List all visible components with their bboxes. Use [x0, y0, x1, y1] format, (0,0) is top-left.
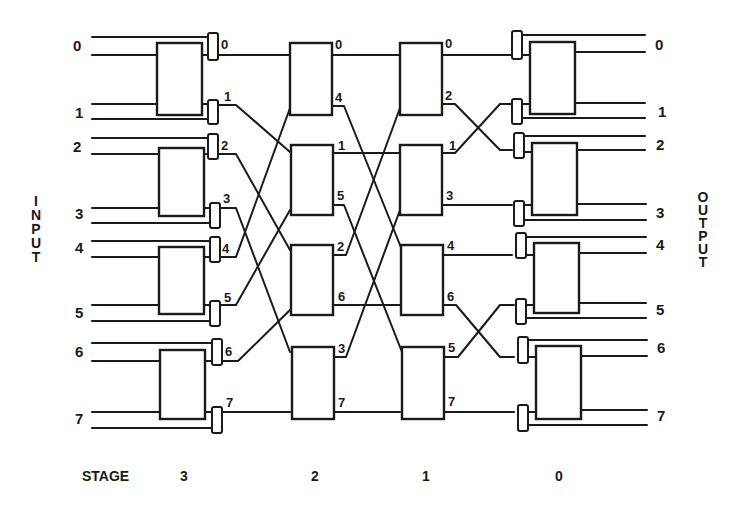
input-label: 0 — [73, 37, 81, 54]
wires-stage2-to-stage1 — [332, 55, 402, 412]
svg-text:7: 7 — [338, 395, 345, 410]
input-label: 4 — [75, 239, 84, 256]
svg-text:7: 7 — [448, 394, 455, 409]
svg-text:4: 4 — [335, 90, 343, 105]
svg-text:6: 6 — [447, 289, 454, 304]
svg-text:4: 4 — [447, 238, 455, 253]
switch-box — [400, 43, 442, 115]
svg-text:6: 6 — [338, 289, 345, 304]
svg-text:T: T — [699, 254, 708, 270]
svg-text:3: 3 — [446, 188, 453, 203]
switch-box — [534, 243, 579, 313]
input-label: 7 — [75, 410, 83, 427]
stage-labels: STAGE 3 2 1 0 — [82, 468, 563, 484]
switch-box — [530, 42, 575, 114]
switch-box — [292, 347, 334, 419]
stage-label: STAGE — [82, 468, 129, 484]
svg-text:5: 5 — [337, 188, 344, 203]
stage-1-switches — [400, 43, 444, 419]
output-label: 3 — [656, 204, 664, 221]
output-label: 4 — [656, 236, 665, 253]
wires-stage1-to-stage0 — [442, 55, 514, 412]
stage-number: 1 — [422, 468, 430, 484]
svg-text:4: 4 — [222, 241, 230, 256]
svg-text:3: 3 — [338, 341, 345, 356]
input-label: 2 — [73, 138, 81, 155]
output-label: 5 — [656, 301, 664, 318]
stage-number: 2 — [311, 468, 319, 484]
output-label: 2 — [656, 136, 664, 153]
svg-text:5: 5 — [224, 290, 231, 305]
output-label: 6 — [657, 339, 665, 356]
svg-text:0: 0 — [445, 36, 452, 51]
switch-box — [159, 148, 204, 216]
output-label: 1 — [658, 103, 666, 120]
switch-box — [536, 346, 581, 419]
switch-box — [159, 247, 204, 314]
svg-text:0: 0 — [221, 37, 228, 52]
svg-text:1: 1 — [449, 138, 456, 153]
input-label: 5 — [75, 304, 83, 321]
input-labels: 0 1 2 3 4 5 6 7 — [73, 37, 84, 427]
stage-3-switches — [157, 33, 222, 433]
input-label: 6 — [75, 343, 83, 360]
stage-0-switches — [512, 31, 581, 431]
stage-number: 3 — [180, 468, 188, 484]
stage-number: 0 — [555, 468, 563, 484]
input-side-label: I N P U T — [31, 193, 41, 265]
svg-text:6: 6 — [225, 344, 232, 359]
output-side-label: O U T P U T — [698, 189, 709, 270]
output-label: 0 — [655, 36, 663, 53]
switch-box — [290, 43, 332, 115]
svg-text:2: 2 — [445, 88, 452, 103]
svg-text:1: 1 — [338, 138, 345, 153]
stage-2-switches — [290, 43, 334, 419]
switch-box — [291, 245, 333, 315]
switch-box — [400, 145, 442, 215]
svg-text:5: 5 — [448, 340, 455, 355]
svg-text:2: 2 — [221, 138, 228, 153]
stage-2-port-labels: 0 4 1 5 2 6 3 7 — [335, 37, 345, 410]
switch-box — [157, 43, 202, 115]
butterfly-network-diagram: 0 1 2 3 4 5 6 7 0 1 2 3 4 5 6 7 0 1 2 3 … — [0, 0, 740, 510]
svg-text:7: 7 — [226, 395, 233, 410]
switch-box — [291, 145, 333, 215]
input-label: 1 — [75, 104, 83, 121]
stage-1-port-labels: 0 2 1 3 4 6 5 7 — [445, 36, 456, 409]
input-label: 3 — [75, 205, 83, 222]
svg-text:T: T — [32, 249, 41, 265]
output-labels: 0 1 2 3 4 5 6 7 — [655, 36, 666, 424]
output-label: 7 — [657, 407, 665, 424]
switch-box — [160, 350, 205, 419]
svg-text:1: 1 — [224, 89, 231, 104]
svg-text:0: 0 — [335, 37, 342, 52]
svg-text:2: 2 — [337, 239, 344, 254]
switch-box — [532, 143, 577, 215]
switch-box — [401, 245, 443, 315]
switch-box — [402, 347, 444, 419]
svg-text:3: 3 — [223, 191, 230, 206]
